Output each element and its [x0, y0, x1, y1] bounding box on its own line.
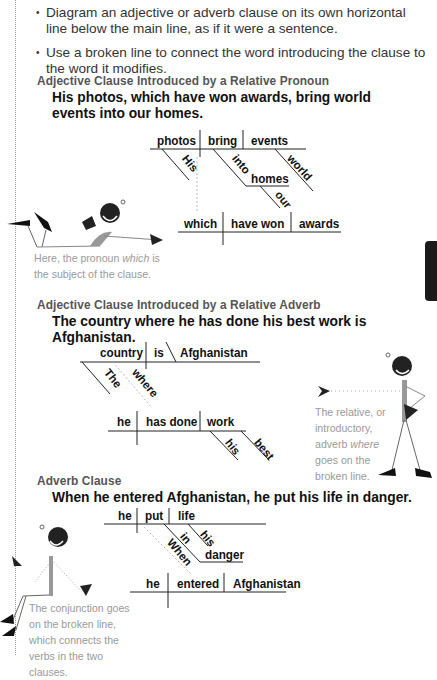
diagram-word-verb: put [145, 508, 163, 523]
example-sentence: When he entered Afghanistan, he put his … [52, 490, 432, 506]
diagram-word-object: life [178, 508, 195, 523]
figure-caption: The conjunction goes on the broken line,… [29, 600, 139, 680]
section-heading: Adverb Clause [37, 473, 121, 488]
diagram-word: homes [251, 171, 289, 186]
clause-word-object: Afghanistan [233, 576, 301, 591]
caption-emphasis: where [350, 438, 379, 450]
example-sentence: The country where he has done his best w… [52, 314, 432, 346]
clause-word-object: awards [299, 216, 339, 231]
caption-text: Here, the pronoun [34, 252, 122, 264]
diagram-word-verb: is [154, 345, 164, 360]
clause-word-verb: entered [177, 576, 219, 591]
caption-text: goes on the broken line. [315, 454, 370, 482]
diagram-word-verb: bring [208, 133, 237, 148]
section-heading: Adjective Clause Introduced by a Relativ… [37, 297, 321, 312]
diagram-word-subject: he [118, 508, 132, 523]
diagram-word: danger [205, 547, 244, 562]
clause-word-subject: he [117, 414, 131, 429]
cartoon-figure-1 [7, 200, 163, 247]
clause-word-verb: has done [146, 414, 197, 429]
caption-emphasis: which [122, 252, 149, 264]
clause-word-verb: have won [231, 216, 284, 231]
figure-caption: The relative, or introductory, adverb wh… [315, 404, 389, 484]
clause-word-object: work [207, 414, 234, 429]
diagram-word-subject: country [100, 345, 143, 360]
clause-word-subject: he [146, 576, 160, 591]
clause-word-subject: which [184, 216, 217, 231]
figure-caption: Here, the pronoun which is the subject o… [34, 250, 172, 282]
diagram-word-subject: photos [157, 133, 196, 148]
diagram-word-complement: Afghanistan [180, 345, 248, 360]
diagram-word-object: events [251, 133, 288, 148]
